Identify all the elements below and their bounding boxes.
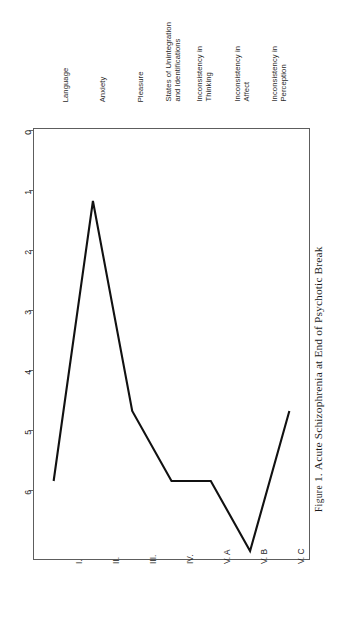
descriptive-label-line2: Thinking [205, 46, 214, 102]
figure-caption-spacer1 [312, 482, 324, 485]
figure-caption-text: Acute Schizophrenia at End of Psychotic … [312, 246, 324, 470]
category-axis-tick-label-3: III. [148, 555, 158, 564]
descriptive-label-line1: Inconsistency in [233, 46, 242, 102]
descriptive-label-line1: Anxiety [98, 76, 107, 102]
descriptive-label-line1: Language [61, 67, 70, 102]
descriptive-label-language: Language [61, 67, 70, 102]
data-series-line [54, 201, 290, 551]
descriptive-label-line2: and Identifications [174, 22, 183, 102]
value-axis-tick-label-6: 6 [23, 490, 33, 495]
descriptive-label-inconsistency-perception: Inconsistency in Perception [270, 46, 289, 102]
descriptive-label-line1: Pleasure [136, 71, 145, 102]
value-axis: 0 1 2 3 4 5 6 [20, 128, 33, 560]
category-axis-tick-label-5: V. A [222, 549, 232, 564]
figure-caption-spacer2 [312, 470, 324, 473]
category-axis-tick-label-6: V. B [259, 549, 269, 564]
descriptive-label-inconsistency-affect: Inconsistency in Affect [233, 46, 252, 102]
descriptive-label-line1: Inconsistency in [195, 46, 204, 102]
descriptive-label-states-of-unintegration: States of Unintegration and Identificati… [164, 22, 183, 102]
figure-page: Language Anxiety Pleasure States of Unin… [0, 0, 341, 634]
descriptive-label-pleasure: Pleasure [136, 71, 145, 102]
descriptive-label-line1: Inconsistency in [270, 46, 279, 102]
value-axis-tick-label-3: 3 [23, 310, 33, 315]
value-axis-tick-label-5: 5 [23, 430, 33, 435]
chart-plot-area [34, 129, 309, 559]
descriptive-label-line1: States of Unintegration [164, 22, 173, 102]
chart-frame [33, 128, 310, 560]
figure-caption-number: 1. [312, 473, 324, 482]
category-axis-tick-label-1: I. [74, 559, 84, 564]
value-axis-tick-label-0: 0 [23, 130, 33, 135]
category-axis-tick-label-7: V. C [296, 548, 306, 564]
category-axis-tick-label-2: II. [111, 557, 121, 564]
descriptive-label-anxiety: Anxiety [98, 76, 107, 102]
figure-caption: Figure 1. Acute Schizophrenia at End of … [312, 246, 324, 512]
value-axis-tick-label-4: 4 [23, 370, 33, 375]
category-axis: I. II. III. IV. V. A V. B V. C [33, 562, 310, 622]
category-axis-tick-label-4: IV. [185, 555, 195, 564]
figure-caption-prefix: Figure [314, 485, 324, 512]
value-axis-tick-label-1: 1 [23, 190, 33, 195]
descriptive-label-inconsistency-thinking: Inconsistency in Thinking [195, 46, 214, 102]
descriptive-label-band: Language Anxiety Pleasure States of Unin… [0, 0, 341, 106]
descriptive-label-line2: Perception [280, 46, 289, 102]
descriptive-label-line2: Affect [243, 46, 252, 102]
value-axis-tick-label-2: 2 [23, 250, 33, 255]
